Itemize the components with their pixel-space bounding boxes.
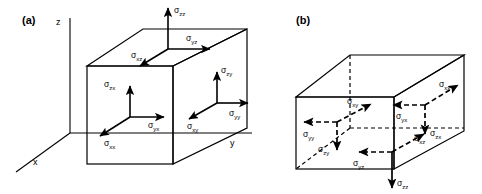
axis-label-z: z	[56, 17, 61, 27]
top-face-b	[296, 55, 464, 97]
label-sigma-yz: σyz	[186, 33, 197, 45]
label-sigma-xx-b: σxx	[439, 79, 450, 91]
label-sigma-zx-b: σzx	[430, 128, 441, 140]
label-sigma-yy: σyy	[229, 108, 240, 120]
label-sigma-xz: σxz	[131, 50, 142, 62]
label-sigma-xy: σxy	[187, 121, 198, 133]
label-sigma-yx-b: σyx	[396, 111, 407, 123]
x-axis-line	[16, 133, 70, 172]
axis-label-y: y	[230, 138, 235, 148]
figure-canvas: σzx σyx σxx σzz σyz σxz σzy	[0, 0, 482, 194]
label-sigma-yy-b: σyy	[303, 129, 314, 141]
label-sigma-xx: σxx	[104, 138, 115, 150]
figure-stress-tensor-cubes: σzx σyx σxx σzz σyz σxz σzy	[0, 0, 482, 194]
right-face-stress-triad	[189, 72, 248, 119]
panel-label-b: (b)	[296, 14, 310, 26]
arrow-sigma-xz	[140, 49, 168, 66]
arrow-sigma-xy	[189, 103, 217, 119]
label-sigma-zz-b: σzz	[397, 178, 408, 190]
right-face-b	[394, 55, 464, 169]
axis-label-x: x	[33, 157, 38, 167]
label-sigma-zz-a: σzz	[174, 5, 185, 17]
label-sigma-yz-b: σyz	[353, 158, 364, 170]
label-sigma-zy: σzy	[221, 65, 232, 77]
top-face	[87, 29, 247, 66]
panel-b: σxy σyy σzy σxx σyx σzx	[296, 14, 464, 190]
top-face-stress-triad	[140, 8, 210, 66]
panel-a: σzx σyx σxx σzz σyz σxz σzy	[16, 5, 252, 172]
label-sigma-yx: σyx	[148, 120, 159, 132]
rear-left-face-stress-triad	[304, 104, 371, 150]
label-sigma-zx: σzx	[104, 79, 115, 91]
label-sigma-xy-b: σxy	[347, 96, 358, 108]
panel-label-a: (a)	[22, 14, 36, 26]
